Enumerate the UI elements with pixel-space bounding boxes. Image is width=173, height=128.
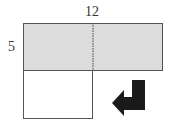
diagram-canvas [0,0,173,128]
lower-square [24,71,93,119]
bent-arrow-icon [112,80,145,116]
